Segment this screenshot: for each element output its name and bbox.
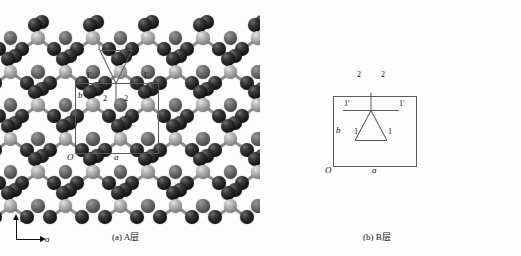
mid-atom-a-4-3 xyxy=(224,165,237,178)
light-atom-center-a-1-2 xyxy=(169,65,182,78)
dark-atom-cap-front-a-5-0 xyxy=(56,186,70,200)
coord-line-b-1pR xyxy=(371,110,399,111)
mid-atom-a-0-1 xyxy=(114,31,127,44)
mid-atom-a-2-3 xyxy=(224,98,237,111)
mid-atom-a-3-2 xyxy=(196,132,209,145)
light-atom-center-a-1--1 xyxy=(4,65,17,78)
light-atom-center-a-3-2 xyxy=(169,132,182,145)
light-atom-center-a-4-3 xyxy=(196,165,209,178)
light-atom-center-a-2-4 xyxy=(251,98,260,111)
unit-cell-box-a xyxy=(75,83,159,154)
dark-atom-cap-front-a-4-3 xyxy=(193,152,207,166)
mid-atom-a-0-3 xyxy=(224,31,237,44)
coord-line-b-bottom xyxy=(355,140,387,141)
coord-line-a-2 xyxy=(116,84,117,101)
a-axis-label-a: a xyxy=(114,153,119,162)
site-label-a-5: 2 xyxy=(124,95,128,103)
dark-atom-cap-front-a-4-1 xyxy=(83,152,97,166)
dark-atom-cap-front-a-0-3 xyxy=(193,18,207,32)
dark-atom-cap-front-a-1-3 xyxy=(221,52,235,66)
dark-atom-cap-front-a-4-4 xyxy=(248,152,260,166)
dark-atom-left-a-5-2 xyxy=(153,210,167,224)
light-atom-center-a-0-4 xyxy=(251,31,260,44)
light-atom-center-a-3-0 xyxy=(59,132,72,145)
dark-atom-cap-front-a-4-2 xyxy=(138,152,152,166)
site-label-b-1: 2 xyxy=(381,71,385,79)
mid-atom-a-4-0 xyxy=(59,165,72,178)
mid-atom-a-5-0 xyxy=(86,199,99,212)
site-label-b-5: 1 xyxy=(388,128,392,136)
dark-atom-cap-front-a-3-0 xyxy=(56,119,70,133)
crystal-structure-figure: Oab111'1'22Oab221'1'11 b a (a) A层 (b) B层 xyxy=(0,0,521,256)
site-label-b-3: 1' xyxy=(399,100,404,108)
dark-atom-cap-front-a-2-3 xyxy=(193,85,207,99)
mid-atom-a-3-3 xyxy=(251,132,260,145)
dark-atom-cap-front-a-1-1 xyxy=(111,52,125,66)
axis-b-line xyxy=(16,218,17,240)
mid-atom-a-0--1 xyxy=(4,31,17,44)
coord-line-b-2 xyxy=(371,93,372,111)
dark-atom-cap-front-a-0-0 xyxy=(28,18,42,32)
coord-line-a-1pL xyxy=(88,83,116,84)
dark-atom-right-a-5-3 xyxy=(240,210,254,224)
dark-atom-cap-front-a-4-0 xyxy=(28,152,42,166)
mid-atom-a-0-2 xyxy=(169,31,182,44)
light-atom-center-a-5-1 xyxy=(114,199,127,212)
site-label-a-2: 1' xyxy=(86,72,91,80)
dark-atom-cap-front-a-5-3 xyxy=(221,186,235,200)
light-atom-center-a-3--1 xyxy=(4,132,17,145)
site-label-a-0: 1 xyxy=(97,44,101,52)
site-label-b-0: 2 xyxy=(357,71,361,79)
light-atom-center-a-0-0 xyxy=(31,31,44,44)
dark-atom-cap-front-a-0-2 xyxy=(138,18,152,32)
dark-atom-cap-front-a-1-0 xyxy=(56,52,70,66)
mid-atom-a-5-3 xyxy=(251,199,260,212)
light-atom-center-a-2-3 xyxy=(196,98,209,111)
dark-atom-cap-front-a-2-4 xyxy=(248,85,260,99)
dark-atom-cap-front-a-3-2 xyxy=(166,119,180,133)
a-axis-label-b: a xyxy=(372,166,377,175)
dark-atom-cap-front-a-1-2 xyxy=(166,52,180,66)
site-label-a-1: 1 xyxy=(131,44,135,52)
dark-atom-cap-front-a-5--1 xyxy=(1,186,15,200)
light-atom-center-a-0-2 xyxy=(141,31,154,44)
dark-atom-left-a-5-0 xyxy=(43,210,57,224)
light-atom-center-a-4-4 xyxy=(251,165,260,178)
mid-atom-a-4--1 xyxy=(4,165,17,178)
light-atom-center-a-4-1 xyxy=(86,165,99,178)
mid-atom-a-4-2 xyxy=(169,165,182,178)
light-atom-center-a-2-0 xyxy=(31,98,44,111)
dark-atom-cap-front-a-3--1 xyxy=(1,119,15,133)
mid-atom-a-4-1 xyxy=(114,165,127,178)
light-atom-center-a-4-0 xyxy=(31,165,44,178)
coord-line-a-top xyxy=(100,50,132,51)
origin-label-b: O xyxy=(325,166,332,175)
mid-atom-a-1-2 xyxy=(196,65,209,78)
b-axis-label-b: b xyxy=(336,126,341,135)
dark-atom-right-a-5-0 xyxy=(75,210,89,224)
mid-atom-a-2--1 xyxy=(4,98,17,111)
mid-atom-a-5--1 xyxy=(31,199,44,212)
mid-atom-a-1-3 xyxy=(251,65,260,78)
dark-atom-cap-front-a-2-0 xyxy=(28,85,42,99)
light-atom-center-a-4-2 xyxy=(141,165,154,178)
origin-label-a: O xyxy=(67,153,74,162)
light-atom-center-a-5-0 xyxy=(59,199,72,212)
mid-atom-a-2-2 xyxy=(169,98,182,111)
mid-atom-a-2-0 xyxy=(59,98,72,111)
axis-b-arrow-icon xyxy=(13,214,19,220)
mid-atom-a-5-1 xyxy=(141,199,154,212)
mid-atom-a-1--1 xyxy=(31,65,44,78)
dark-atom-cap-front-a-0-4 xyxy=(248,18,260,32)
site-label-b-4: 1 xyxy=(354,128,358,136)
axis-key-a-label: a xyxy=(45,234,50,244)
light-atom-center-a-5-3 xyxy=(224,199,237,212)
dark-atom-right-a-5--1 xyxy=(20,210,34,224)
panel-a-caption: (a) A层 xyxy=(112,230,139,243)
mid-atom-a-3--1 xyxy=(31,132,44,145)
dark-atom-cap-front-a-1--1 xyxy=(1,52,15,66)
dark-atom-cap-front-a-0-1 xyxy=(83,18,97,32)
dark-atom-cap-front-a-3-3 xyxy=(221,119,235,133)
b-axis-label-a: b xyxy=(78,91,83,100)
light-atom-center-a-1-3 xyxy=(224,65,237,78)
